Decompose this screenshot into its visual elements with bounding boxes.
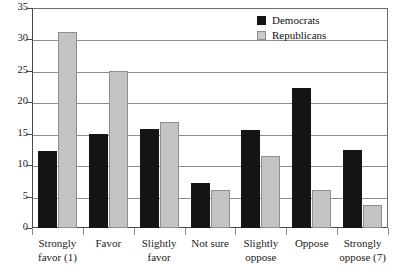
bar-groups xyxy=(32,8,388,228)
bar-democrats-4 xyxy=(191,183,210,228)
legend-label: Democrats xyxy=(272,13,320,28)
x-tick-mark xyxy=(83,228,84,235)
x-tick-mark xyxy=(388,228,389,235)
bar-republicans-4 xyxy=(211,190,230,228)
y-tick-label: 20 xyxy=(2,96,28,106)
x-axis-label-line1: Strongly xyxy=(38,237,76,249)
legend-item-republicans: Republicans xyxy=(257,28,326,43)
bar-group xyxy=(185,8,236,228)
bar-group xyxy=(32,8,83,228)
bar-republicans-5 xyxy=(261,156,280,228)
x-tick-mark xyxy=(286,228,287,235)
y-tick-label: 35 xyxy=(2,2,28,12)
x-axis-label-line1: Oppose xyxy=(295,237,329,249)
x-axis-label-6: Oppose xyxy=(286,236,337,264)
x-axis-label-2: Favor xyxy=(83,236,134,264)
y-tick-label: 0 xyxy=(2,222,28,232)
x-tick-mark xyxy=(337,228,338,235)
bar-democrats-3 xyxy=(140,129,159,228)
x-axis-label-3: Slightlyfavor xyxy=(134,236,185,264)
x-axis-label-line1: Favor xyxy=(95,237,121,249)
x-axis-label-4: Not sure xyxy=(185,236,236,264)
bar-republicans-1 xyxy=(58,32,77,228)
gray-square-icon xyxy=(257,31,266,40)
x-axis-label-line2 xyxy=(83,250,134,264)
bar-republicans-2 xyxy=(109,71,128,228)
y-tick-label: 25 xyxy=(2,65,28,75)
x-axis-label-line2: favor (1) xyxy=(32,250,83,264)
bar-group xyxy=(83,8,134,228)
legend-item-democrats: Democrats xyxy=(257,13,326,28)
y-tick-label: 15 xyxy=(2,128,28,138)
x-axis-label-line2: oppose (7) xyxy=(337,250,388,264)
x-axis-label-line1: Slightly xyxy=(142,237,177,249)
bar-group xyxy=(337,8,388,228)
x-tick-mark xyxy=(235,228,236,235)
y-tick-label: 5 xyxy=(2,191,28,201)
x-axis-labels: Stronglyfavor (1)Favor SlightlyfavorNot … xyxy=(32,236,388,264)
bar-republicans-3 xyxy=(160,122,179,228)
x-axis-label-7: Stronglyoppose (7) xyxy=(337,236,388,264)
x-axis-label-line1: Slightly xyxy=(243,237,278,249)
y-tick-label: 10 xyxy=(2,159,28,169)
x-axis-label-line2: favor xyxy=(134,250,185,264)
bar-democrats-5 xyxy=(241,130,260,228)
x-axis-label-line2 xyxy=(185,250,236,264)
x-axis-label-line1: Not sure xyxy=(191,237,229,249)
x-tick-mark xyxy=(32,228,33,235)
bar-chart: 05101520253035 Stronglyfavor (1)Favor Sl… xyxy=(0,0,394,270)
bar-republicans-7 xyxy=(363,205,382,228)
bar-democrats-7 xyxy=(343,150,362,228)
black-square-icon xyxy=(257,16,266,25)
bar-group xyxy=(134,8,185,228)
x-axis-label-line2: oppose xyxy=(235,250,286,264)
bar-democrats-2 xyxy=(89,134,108,228)
legend-label: Republicans xyxy=(272,28,326,43)
x-axis-label-1: Stronglyfavor (1) xyxy=(32,236,83,264)
bar-democrats-1 xyxy=(38,151,57,228)
bar-republicans-6 xyxy=(312,190,331,228)
bar-democrats-6 xyxy=(292,88,311,228)
x-tick-mark xyxy=(185,228,186,235)
y-tick-label: 30 xyxy=(2,33,28,43)
x-tick-mark xyxy=(134,228,135,235)
x-axis-label-line2 xyxy=(286,250,337,264)
x-axis-label-line1: Strongly xyxy=(344,237,382,249)
chart-legend: DemocratsRepublicans xyxy=(257,13,326,43)
x-axis-label-5: Slightlyoppose xyxy=(235,236,286,264)
